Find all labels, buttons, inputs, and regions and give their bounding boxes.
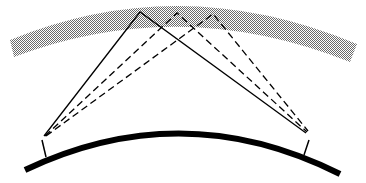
left-station-antenna (42, 140, 46, 157)
ground-surface-arc (25, 133, 340, 174)
right-station-antenna (304, 140, 309, 155)
reflecting-layer-band (10, 6, 357, 62)
diagram-canvas (0, 0, 366, 183)
